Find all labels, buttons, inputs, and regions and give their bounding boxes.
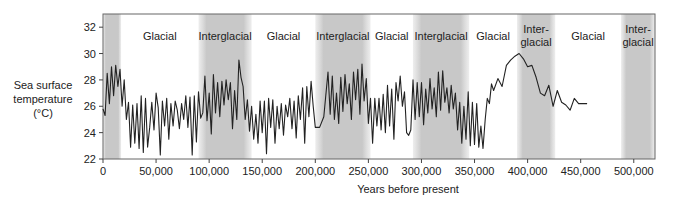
band-label: Glacial [476,30,510,42]
x-axis-label: Years before present [357,183,459,195]
band-label: glacial [521,36,552,48]
x-tick-label: 300,000 [402,165,442,177]
x-tick-label: 50,000 [139,165,173,177]
y-axis-label-line: (°C) [0,106,86,120]
sst-line-chart: GlacialInterglacialGlacialInterglacialGl… [0,0,675,209]
band-label: Interglacial [198,30,251,42]
x-tick-label: 450,000 [561,165,601,177]
x-tick-label: 400,000 [508,165,548,177]
x-tick-label: 350,000 [455,165,495,177]
x-tick-label: 200,000 [295,165,335,177]
band-label: Inter- [523,23,549,35]
y-tick-label: 22 [84,153,96,165]
y-axis-label: Sea surface temperature (°C) [0,78,86,120]
y-axis-label-line: temperature [0,92,86,106]
chart-container: GlacialInterglacialGlacialInterglacialGl… [0,0,675,209]
band-label: Glacial [143,30,177,42]
band-label: Glacial [375,30,409,42]
band-label: Interglacial [316,30,369,42]
band-label: Glacial [571,30,605,42]
x-tick-label: 100,000 [189,165,229,177]
band-label: Glacial [267,30,301,42]
band-label: Inter- [625,23,651,35]
x-tick-label: 0 [100,165,106,177]
x-tick-label: 250,000 [349,165,389,177]
y-axis-label-line: Sea surface [0,78,86,92]
y-tick-label: 32 [84,21,96,33]
band-label: glacial [622,36,653,48]
x-tick-label: 150,000 [242,165,282,177]
x-tick-label: 500,000 [614,165,654,177]
y-tick-label: 24 [84,127,96,139]
y-tick-label: 30 [84,48,96,60]
band-label: Interglacial [414,30,467,42]
